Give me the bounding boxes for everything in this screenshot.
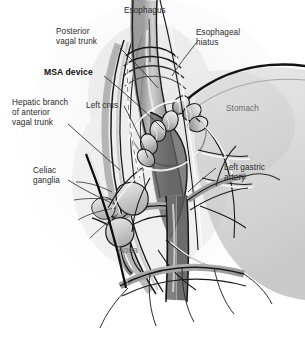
- label-hepatic-branch-line1: Hepatic branch: [12, 98, 68, 108]
- label-left-crus: Left crus: [86, 101, 118, 111]
- label-posterior-vagal-trunk-line2: vagal trunk: [56, 37, 97, 47]
- label-stomach: Stomach: [226, 104, 259, 114]
- label-esophageal-hiatus-line1: Esophageal: [196, 28, 240, 38]
- label-hepatic-branch-line3: vagal trunk: [12, 118, 53, 128]
- label-celiac-ganglia-line2: ganglia: [33, 176, 60, 186]
- label-esophageal-hiatus-line2: hiatus: [196, 38, 218, 48]
- label-msa-device: MSA device: [44, 68, 93, 78]
- label-posterior-vagal-trunk-line1: Posterior: [56, 27, 90, 37]
- label-left-gastric-artery-line1: Left gastric: [224, 163, 265, 173]
- label-esophagus: Esophagus: [124, 6, 166, 16]
- label-left-gastric-artery-line2: artery: [224, 173, 245, 183]
- label-celiac-ganglia-line1: Celiac: [33, 166, 56, 176]
- medical-illustration-figure: Esophagus Esophageal hiatus Posterior va…: [0, 0, 305, 341]
- label-aorta: Aorta: [118, 246, 138, 256]
- label-hepatic-branch-line2: of anterior: [12, 108, 50, 118]
